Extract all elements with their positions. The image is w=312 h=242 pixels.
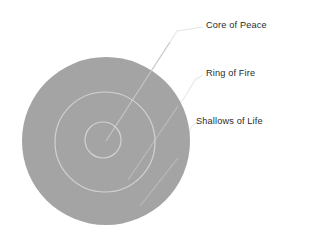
label-ring-of-fire[interactable]: Ring of Fire	[206, 67, 255, 79]
label-core-of-peace[interactable]: Core of Peace	[206, 19, 267, 31]
label-shallows-of-life[interactable]: Shallows of Life	[196, 115, 263, 127]
target-diagram	[0, 0, 312, 242]
diagram-canvas: Core of Peace Ring of Fire Shallows of L…	[0, 0, 312, 242]
